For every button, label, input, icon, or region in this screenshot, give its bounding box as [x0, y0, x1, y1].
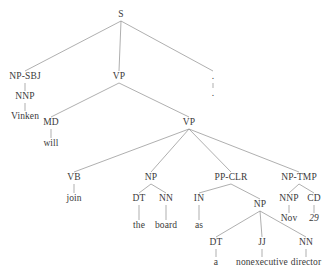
nonterminal-node-np-sbj: NP-SBJ: [9, 72, 41, 82]
nonterminal-node-pp-clr: PP-CLR: [214, 173, 247, 183]
terminal-node-w-29: 29: [309, 214, 319, 224]
tree-edge-np-pred-to-jj: [260, 211, 262, 237]
tree-edge-np-obj-to-nn-board: [151, 184, 166, 193]
tree-edge-vp-inner-to-vb: [74, 129, 189, 172]
tree-edge-np-tmp-to-nnp-nov: [289, 184, 299, 193]
nonterminal-node-np-tmp: NP-TMP: [281, 173, 317, 183]
nonterminal-node-nn-director: NN: [299, 238, 313, 248]
nonterminal-node-dt-a: DT: [210, 238, 223, 248]
nonterminal-node-cd: CD: [307, 194, 321, 204]
tree-edge-vp-inner-to-np-tmp: [189, 129, 299, 172]
nonterminal-node-np-obj: NP: [145, 173, 157, 183]
nonterminal-node-vp-outer: VP: [113, 72, 125, 82]
terminal-node-w-will: will: [43, 139, 58, 149]
tree-edge-s-to-punct: [121, 21, 213, 71]
tree-edge-np-tmp-to-cd: [299, 184, 314, 193]
tree-edge-vp-inner-to-np-obj: [151, 129, 189, 172]
nonterminal-node-nn-board: NN: [159, 194, 173, 204]
tree-edge-s-to-np-sbj: [25, 21, 121, 71]
terminal-node-w-board: board: [155, 221, 177, 231]
tree-edge-np-obj-to-dt-the: [139, 184, 151, 193]
nonterminal-node-vp-inner: VP: [183, 118, 195, 128]
nonterminal-node-np-pred: NP: [254, 200, 266, 210]
nonterminal-node-s: S: [118, 10, 123, 20]
nonterminal-node-jj: JJ: [258, 238, 266, 248]
nonterminal-node-nnp-vinken: NNP: [15, 92, 34, 102]
tree-edge-np-pred-to-dt-a: [216, 211, 260, 237]
nonterminal-node-punct: .: [212, 72, 215, 82]
nonterminal-node-in-as: IN: [194, 194, 204, 204]
tree-edge-vp-inner-to-pp-clr: [189, 129, 231, 172]
tree-edge-pp-clr-to-in-as: [199, 184, 231, 193]
terminal-node-w-nov: Nov: [281, 214, 298, 224]
tree-edge-s-to-vp-outer: [119, 21, 121, 71]
terminal-node-w-nonexec: nonexecutive: [236, 258, 288, 268]
tree-edge-vp-outer-to-vp-inner: [119, 83, 189, 117]
terminal-node-w-the: the: [133, 221, 145, 231]
tree-edge-pp-clr-to-np-pred: [231, 184, 260, 199]
terminal-node-w-join: join: [66, 194, 81, 204]
nonterminal-node-vb: VB: [67, 173, 81, 183]
terminal-node-w-a: a: [214, 258, 218, 268]
terminal-node-w-director: director: [291, 258, 321, 268]
parse-tree-figure: SNP-SBJNNPVinkenVPMDwillVPVBjoinNPDTtheN…: [0, 0, 331, 277]
terminal-node-w-as: as: [195, 221, 203, 231]
terminal-node-w-vinken: Vinken: [11, 112, 39, 122]
terminal-node-w-punct: .: [212, 89, 214, 99]
tree-edge-vp-outer-to-md: [51, 83, 119, 117]
nonterminal-node-dt-the: DT: [133, 194, 146, 204]
nonterminal-node-nnp-nov: NNP: [279, 194, 298, 204]
nonterminal-node-md: MD: [43, 118, 59, 128]
